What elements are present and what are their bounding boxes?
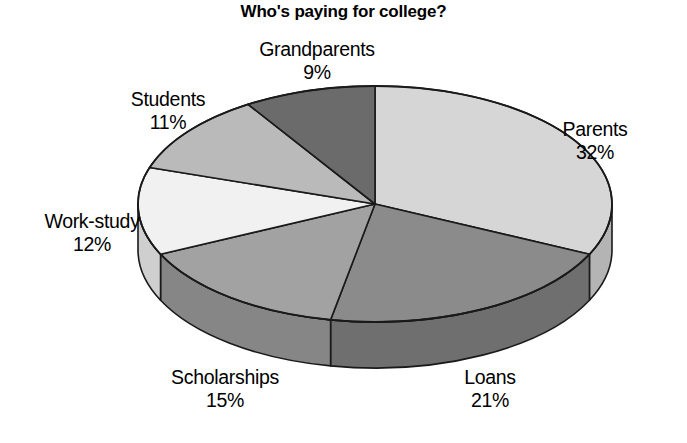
slice-label-loans: Loans 21%: [420, 366, 560, 412]
slice-pct-scholarships: 15%: [130, 389, 320, 412]
slice-pct-grandparents: 9%: [222, 61, 412, 84]
slice-label-students: Students 11%: [88, 88, 248, 134]
slice-name-grandparents: Grandparents: [259, 38, 375, 60]
slice-label-scholarships: Scholarships 15%: [130, 366, 320, 412]
pie-chart: Who's paying for college? Parents 32% Lo…: [0, 0, 687, 443]
slice-pct-students: 11%: [88, 111, 248, 134]
slice-name-parents: Parents: [562, 118, 627, 140]
slice-name-work-study: Work-study: [44, 210, 139, 232]
slice-pct-loans: 21%: [420, 389, 560, 412]
slice-name-scholarships: Scholarships: [171, 366, 279, 388]
slice-pct-parents: 32%: [520, 141, 670, 164]
slice-label-grandparents: Grandparents 9%: [222, 38, 412, 84]
slice-label-parents: Parents 32%: [520, 118, 670, 164]
slice-name-loans: Loans: [464, 366, 516, 388]
slice-name-students: Students: [131, 88, 206, 110]
slice-label-work-study: Work-study 12%: [12, 210, 172, 256]
slice-pct-work-study: 12%: [12, 233, 172, 256]
